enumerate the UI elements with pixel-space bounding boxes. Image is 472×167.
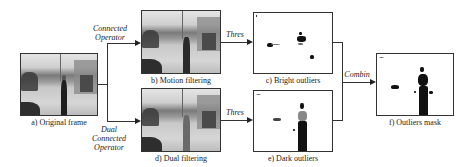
outlier-blob bbox=[297, 36, 306, 42]
outlier-blob bbox=[298, 43, 303, 45]
outlier-blob bbox=[298, 111, 307, 121]
tree-shape bbox=[142, 108, 159, 127]
connector-line bbox=[107, 43, 108, 122]
pole-shape bbox=[182, 89, 184, 117]
outlier-blob bbox=[273, 118, 281, 121]
building-shape bbox=[202, 111, 216, 128]
building-shape bbox=[80, 75, 94, 92]
threshold-label-top: Thres bbox=[222, 30, 248, 39]
person-shape bbox=[183, 37, 190, 73]
caption-dual-filtering: d) Dual filtering bbox=[141, 154, 221, 163]
connected-operator-label: Connected Operator bbox=[80, 24, 140, 42]
dual-connected-operator-label: Dual Connected Operator bbox=[80, 125, 138, 152]
connector-line bbox=[98, 84, 107, 85]
caption-outliers-mask: f) Outliers mask bbox=[376, 118, 454, 127]
outliers-mask-image bbox=[376, 53, 454, 116]
bush-shape bbox=[142, 59, 162, 73]
outlier-blob bbox=[420, 67, 424, 72]
outlier-blob bbox=[419, 86, 428, 116]
connector-line bbox=[342, 82, 370, 83]
outlier-blob bbox=[293, 129, 295, 131]
dark-outliers-image bbox=[253, 90, 333, 152]
outlier-blob bbox=[414, 91, 416, 93]
person-shape bbox=[61, 80, 68, 115]
motion-filtering-image bbox=[141, 10, 221, 74]
outlier-blob bbox=[300, 103, 304, 109]
outlier-blob bbox=[391, 85, 399, 89]
bush-shape bbox=[142, 137, 162, 151]
outlier-blob bbox=[429, 91, 433, 94]
outlier-blob bbox=[256, 15, 257, 17]
outlier-blob bbox=[418, 74, 428, 86]
connector-line bbox=[107, 43, 135, 44]
outlier-blob bbox=[298, 121, 307, 152]
bush-shape bbox=[21, 102, 40, 115]
outlier-blob bbox=[310, 55, 314, 59]
threshold-label-bottom: Thres bbox=[222, 108, 248, 117]
dual-filtering-image bbox=[141, 88, 221, 152]
caption-dark-outliers: e) Dark outliers bbox=[253, 154, 333, 163]
tree-shape bbox=[142, 30, 159, 49]
connector-line bbox=[221, 120, 247, 121]
person-shape bbox=[183, 115, 190, 151]
outlier-blob bbox=[299, 32, 302, 35]
outlier-blob bbox=[379, 57, 384, 58]
outlier-blob bbox=[271, 44, 280, 45]
caption-motion-filtering: b) Motion filtering bbox=[141, 76, 221, 85]
connector-line bbox=[333, 120, 343, 121]
caption-bright-outliers: c) Bright outliers bbox=[253, 76, 333, 85]
outlier-blob bbox=[256, 94, 261, 95]
building-shape bbox=[202, 33, 216, 50]
pole-shape bbox=[182, 11, 184, 39]
pole-shape bbox=[60, 54, 62, 81]
combine-label: Combin bbox=[343, 70, 371, 79]
tree-shape bbox=[21, 72, 38, 90]
bright-outliers-image bbox=[253, 12, 333, 74]
original-frame-image bbox=[20, 53, 98, 116]
connector-line bbox=[221, 42, 247, 43]
connector-line bbox=[107, 121, 135, 122]
